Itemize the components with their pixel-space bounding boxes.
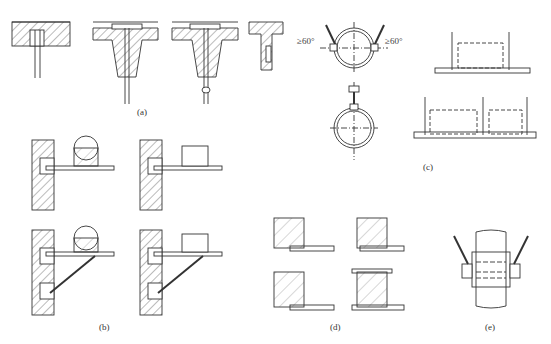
panel-b-braced-bracket-duct — [140, 230, 222, 315]
panel-a-anchor-3 — [172, 22, 238, 104]
panel-label-a: (a) — [137, 107, 147, 117]
panel-label-e: (e) — [485, 322, 495, 332]
panel-label-b: (b) — [99, 322, 110, 332]
panel-e-riser-clamp — [454, 230, 528, 308]
panel-d-column-brackets — [274, 218, 404, 310]
angle-label-left: ≥60° — [297, 36, 315, 46]
panel-c-pipe-clamp-top — [320, 22, 388, 74]
diagram-drawing — [0, 0, 551, 344]
panel-b-wall-bracket-duct — [140, 140, 222, 210]
panel-label-c: (c) — [423, 162, 433, 172]
panel-c-duct-hanger-double — [414, 97, 536, 138]
panel-a-anchor-2 — [93, 22, 158, 104]
panel-b-wall-bracket-pipe — [32, 136, 114, 210]
panel-c-duct-hanger-single — [435, 32, 530, 73]
panel-c-pipe-clamp-bottom — [330, 82, 378, 160]
panel-b-braced-bracket-pipe — [32, 226, 114, 315]
panel-label-d: (d) — [330, 322, 341, 332]
panel-a-anchor-4 — [249, 22, 283, 70]
angle-label-right: ≥60° — [385, 36, 403, 46]
panel-a-anchor-1 — [12, 22, 70, 78]
pipe-support-diagram: ≥60° ≥60° (a) (b) (c) (d) (e) — [0, 0, 551, 344]
